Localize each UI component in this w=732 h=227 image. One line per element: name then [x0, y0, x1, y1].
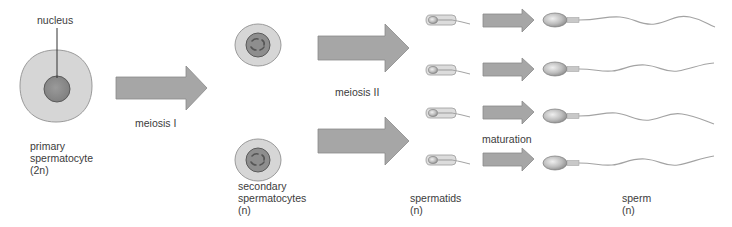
meiosis-1-label: meiosis I	[135, 117, 176, 129]
maturation-arrow-1-icon	[483, 9, 534, 32]
meiosis-2-arrow-bottom-icon	[318, 117, 409, 165]
secondary-spermatocyte-cell-bottom	[235, 139, 281, 181]
spermatid-3	[426, 108, 470, 118]
maturation-arrow-2-icon	[483, 58, 534, 81]
secondary-spermatocytes-label: secondary spermatocytes (n)	[238, 180, 306, 216]
spermatid-4	[426, 155, 470, 165]
spermatid-2	[426, 65, 470, 75]
maturation-label: maturation	[482, 133, 532, 145]
nucleus-icon	[44, 76, 70, 102]
spermatid-1	[426, 15, 470, 25]
maturation-label-text: maturation	[482, 133, 532, 145]
secondary-spermatocyte-cell-top	[235, 24, 281, 66]
primary-spermatocyte-cell	[20, 50, 92, 122]
maturation-arrow-3-icon	[483, 101, 534, 124]
maturation-arrow-4-icon	[483, 148, 534, 171]
nucleus-label: nucleus	[37, 14, 73, 26]
sperm-label-line1: sperm	[622, 192, 651, 204]
sperm-3	[543, 109, 714, 124]
nucleus-label-text: nucleus	[37, 14, 73, 26]
meiosis-2-label-text: meiosis II	[335, 86, 379, 98]
meiosis-2-label: meiosis II	[335, 86, 379, 98]
sperm-2	[543, 62, 714, 76]
sperm-label-line2: (n)	[622, 204, 651, 216]
primary-label-line1: primary	[30, 140, 93, 152]
secondary-label-line3: (n)	[238, 204, 306, 216]
sperm-4	[543, 156, 714, 170]
spermatids-label-line1: spermatids	[410, 192, 461, 204]
spermatogenesis-diagram: nucleus meiosis I primary spermatocyte (…	[0, 0, 732, 227]
spermatids-label: spermatids (n)	[410, 192, 461, 216]
spermatids-label-line2: (n)	[410, 204, 461, 216]
primary-spermatocyte-label: primary spermatocyte (2n)	[30, 140, 93, 176]
secondary-label-line1: secondary	[238, 180, 306, 192]
meiosis-1-arrow-icon	[116, 66, 207, 110]
primary-label-line3: (2n)	[30, 164, 93, 176]
secondary-label-line2: spermatocytes	[238, 192, 306, 204]
sperm-1	[543, 13, 715, 27]
meiosis-1-label-text: meiosis I	[135, 117, 176, 129]
sperm-label: sperm (n)	[622, 192, 651, 216]
primary-label-line2: spermatocyte	[30, 152, 93, 164]
meiosis-2-arrow-top-icon	[318, 24, 409, 72]
